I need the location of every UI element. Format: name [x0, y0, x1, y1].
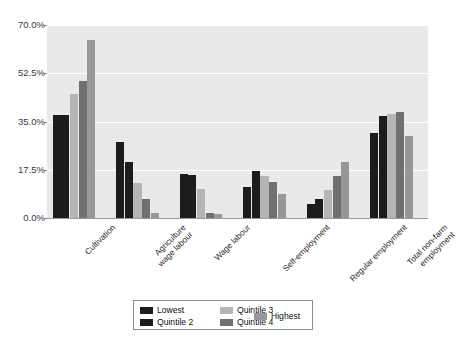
bar-cluster [243, 25, 286, 218]
bar [379, 116, 387, 218]
y-axis-tick-label: 70.0% [3, 20, 45, 30]
bar-cluster [370, 25, 413, 218]
bar [188, 175, 196, 218]
bar [70, 94, 78, 218]
x-axis-label: Self-employment [281, 223, 332, 274]
x-axis-label: Regular employment [349, 223, 410, 284]
bar [142, 199, 150, 218]
y-axis: 0.0%17.5%35.0%52.5%70.0% [0, 0, 45, 342]
bar [197, 189, 205, 218]
bar [180, 174, 188, 218]
bar-cluster [180, 25, 223, 218]
bar [252, 171, 260, 218]
x-axis-label: Wage labour [213, 223, 253, 263]
legend-swatch-icon [140, 307, 153, 314]
bar [269, 182, 277, 218]
bar [53, 115, 61, 218]
legend-label: Highest [271, 311, 300, 321]
legend-swatch-icon [140, 319, 153, 326]
x-axis-label: Total non-farm employment [405, 223, 456, 274]
bar [370, 133, 378, 218]
bar [341, 162, 349, 218]
bar [260, 176, 268, 218]
legend-swatch-icon [220, 319, 233, 326]
legend-item[interactable]: Lowest [140, 305, 184, 315]
legend-label: Quintile 2 [157, 317, 193, 327]
bar [315, 199, 323, 218]
bar-cluster [307, 25, 350, 218]
bar [79, 81, 87, 218]
y-axis-tick-label: 35.0% [3, 117, 45, 127]
legend-label: Lowest [157, 305, 184, 315]
y-axis-tick-label: 52.5% [3, 68, 45, 78]
legend-item[interactable]: Highest [254, 311, 300, 321]
bar [307, 204, 315, 218]
legend-swatch-icon [220, 307, 233, 314]
x-axis-label: Cultivation [84, 223, 118, 257]
bar [278, 194, 286, 218]
legend-item[interactable]: Quintile 2 [140, 317, 193, 327]
bar [405, 136, 413, 218]
legend-swatch-icon [254, 313, 267, 320]
x-axis-label: Agriculture wage labour [149, 223, 194, 268]
x-axis-baseline [47, 218, 428, 219]
bar [243, 187, 251, 218]
y-axis-tick-label: 17.5% [3, 165, 45, 175]
bar [387, 114, 395, 218]
bar-cluster [116, 25, 159, 218]
bar [324, 190, 332, 218]
bar [116, 142, 124, 218]
bar [396, 112, 404, 218]
bar [133, 183, 141, 218]
bar-cluster [53, 25, 96, 218]
bar [87, 40, 95, 218]
bar [61, 115, 69, 218]
y-axis-tick-label: 0.0% [3, 213, 45, 223]
bar [333, 176, 341, 218]
bar [125, 162, 133, 218]
legend: LowestQuintile 2Quintile 3Quintile 4High… [133, 300, 313, 330]
plot-area [47, 25, 428, 218]
